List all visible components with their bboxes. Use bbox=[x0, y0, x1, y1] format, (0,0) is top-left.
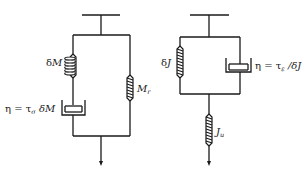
spring-j-u-icon bbox=[206, 114, 212, 146]
label-eta-right: η = τε /δJ bbox=[255, 60, 302, 73]
label-m-r: Mr bbox=[136, 83, 151, 96]
dashpot-right-icon bbox=[226, 58, 251, 72]
left-model: δM η = τσ δM Mr bbox=[5, 15, 151, 166]
viscoelastic-models-diagram: δM η = τσ δM Mr bbox=[0, 0, 308, 179]
label-eta-left: η = τσ δM bbox=[5, 103, 56, 116]
spring-delta-m-icon bbox=[65, 54, 76, 78]
spring-delta-j-icon bbox=[177, 46, 183, 78]
label-delta-m: δM bbox=[46, 57, 63, 68]
spring-m-r-icon bbox=[127, 75, 133, 101]
right-arrow-down-icon bbox=[207, 161, 211, 166]
left-arrow-down-icon bbox=[99, 161, 103, 166]
right-model: δJ η = τε /δJ Ju bbox=[161, 15, 302, 166]
label-delta-j: δJ bbox=[161, 57, 172, 68]
label-j-u: Ju bbox=[214, 126, 224, 139]
